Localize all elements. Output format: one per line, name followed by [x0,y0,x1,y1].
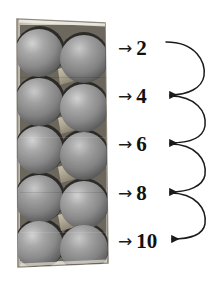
right-arrow-icon: → [118,185,132,202]
count-label-4: → 4 [118,83,147,109]
count-value: 4 [136,86,147,107]
egg-carton-image [8,17,114,270]
right-arrow-icon: → [118,233,132,250]
count-label-8: → 8 [118,180,147,206]
skip-counting-figure: → 2 → 4 → 6 → 8 → 10 [0,0,218,281]
connector-arrow-2-to-4 [166,42,204,95]
count-label-6: → 6 [118,131,147,157]
egg-carton-photo [8,17,114,270]
count-label-2: → 2 [118,35,147,61]
connector-arrow-6-to-8 [170,144,205,192]
count-value: 2 [136,38,147,59]
connector-arrow-4-to-6 [170,96,205,143]
count-value: 6 [136,134,147,155]
count-value: 8 [136,183,147,204]
right-arrow-icon: → [118,88,132,105]
count-value: 10 [136,231,157,252]
count-label-10: → 10 [118,228,157,254]
right-arrow-icon: → [118,40,132,57]
right-arrow-icon: → [118,136,132,153]
connector-arrow-8-to-10 [170,193,205,239]
